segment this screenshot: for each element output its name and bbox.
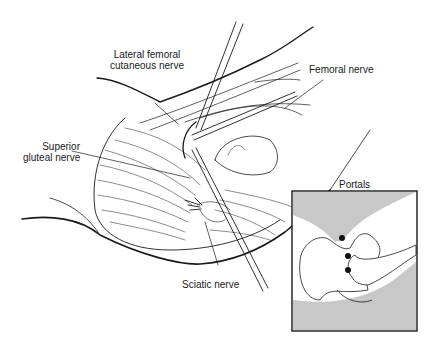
label-superior-gluteal-nerve: Superior gluteal nerve [23, 141, 80, 163]
label-lateral-femoral-cutaneous-nerve: Lateral femoral cutaneous nerve [110, 49, 184, 71]
label-line-2: cutaneous nerve [110, 60, 184, 71]
label-femoral-nerve: Femoral nerve [309, 64, 373, 75]
label-line-2: gluteal nerve [23, 152, 80, 163]
label-sciatic-nerve: Sciatic nerve [182, 279, 239, 290]
label-line-1: Superior [23, 141, 80, 152]
label-line-1: Lateral femoral [110, 49, 184, 60]
hip-arthroscopy-illustration: Lateral femoral cutaneous nerve Femoral … [0, 0, 434, 350]
anatomy-drawing [0, 0, 434, 350]
inset-title-portals: Portals [339, 179, 370, 190]
